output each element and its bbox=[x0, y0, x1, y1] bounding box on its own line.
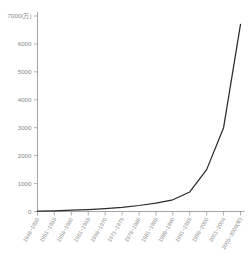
y-tick-label: 2000 bbox=[18, 152, 32, 159]
y-tick-label: 4000 bbox=[18, 96, 32, 103]
x-tick-label: 1991~1995 bbox=[174, 217, 193, 244]
x-tick-label: 1976~1980 bbox=[123, 217, 142, 244]
y-tick-label: 3000 bbox=[18, 124, 32, 131]
y-axis: 7000(万)6000500040003000200010000 bbox=[8, 12, 38, 215]
x-tick-label: 1986~1990 bbox=[157, 217, 176, 244]
line-chart: 7000(万)6000500040003000200010000 1946~19… bbox=[0, 0, 250, 267]
y-tick-label: 5000 bbox=[18, 68, 32, 75]
x-tick-label: 1961~1965 bbox=[72, 217, 91, 244]
x-tick-label: 1996~2000 bbox=[191, 217, 210, 244]
data-series-group bbox=[38, 24, 241, 211]
y-tick-label: 7000(万) bbox=[8, 12, 32, 20]
y-tick-label: 0 bbox=[28, 208, 32, 215]
x-tick-label: 1956~1960 bbox=[55, 217, 74, 244]
chart-container: 7000(万)6000500040003000200010000 1946~19… bbox=[0, 0, 250, 267]
x-tick-label: 1946~1950 bbox=[22, 217, 41, 244]
x-tick-label: 1981~1985 bbox=[140, 217, 159, 244]
x-tick-label: 1951~1955 bbox=[39, 217, 58, 244]
y-tick-label: 1000 bbox=[18, 180, 32, 187]
x-axis: 1946~19501951~19551956~19601961~19651966… bbox=[22, 212, 245, 251]
x-tick-label: 2001~2004 bbox=[208, 217, 227, 244]
series-line bbox=[38, 24, 241, 211]
x-tick-label: 1971~1975 bbox=[106, 217, 125, 244]
x-tick-label: 1966~1970 bbox=[89, 217, 108, 244]
y-tick-label: 6000 bbox=[18, 40, 32, 47]
